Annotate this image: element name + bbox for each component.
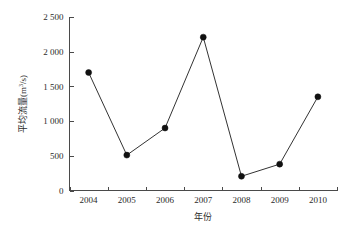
x-axis-tick-label: 2009	[271, 195, 290, 205]
x-axis-tick-label: 2010	[309, 195, 328, 205]
y-axis-tick-label: 2 500	[43, 12, 64, 22]
y-axis-title-tail: /s)	[18, 75, 28, 84]
y-axis-tick-label: 1 000	[43, 116, 64, 126]
x-axis-tick-labels: 2004200520062007200820092010	[80, 195, 328, 205]
y-axis-tick-labels: 05001 0001 5002 0002 500	[43, 12, 64, 196]
y-axis-title-base: 平均流量(m	[17, 87, 28, 133]
x-axis-tick-label: 2007	[194, 195, 213, 205]
y-axis-tick-group	[70, 18, 74, 192]
data-point	[86, 70, 92, 76]
y-axis-title: 平均流量(m3/s)	[17, 75, 28, 133]
y-axis-tick-label: 0	[59, 186, 64, 196]
y-axis-tick-label: 1 500	[43, 82, 64, 92]
x-axis-title: 年份	[194, 211, 212, 222]
x-axis-tick-group	[70, 187, 338, 191]
data-point	[238, 173, 244, 179]
line-chart: 05001 0001 5002 0002 500 200420052006200…	[0, 0, 355, 228]
y-axis-title-group: 平均流量(m3/s)	[17, 75, 28, 133]
x-axis-tick-label: 2005	[118, 195, 137, 205]
data-point	[277, 161, 283, 167]
data-point	[200, 34, 206, 40]
data-point	[162, 125, 168, 131]
y-axis-tick-label: 500	[50, 151, 64, 161]
x-axis-tick-label: 2006	[156, 195, 175, 205]
chart-container: 05001 0001 5002 0002 500 200420052006200…	[0, 0, 355, 228]
data-point	[124, 152, 130, 158]
data-series-markers	[86, 34, 321, 179]
x-axis-tick-label: 2004	[80, 195, 99, 205]
y-axis-tick-label: 2 000	[43, 47, 64, 57]
data-point	[315, 94, 321, 100]
data-series-line	[89, 37, 318, 176]
x-axis-tick-label: 2008	[232, 195, 251, 205]
